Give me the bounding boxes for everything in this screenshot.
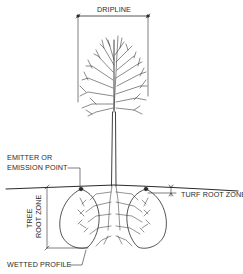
wetted-profile-label: WETTED PROFILE xyxy=(7,261,72,269)
tree-root-zone-dimension xyxy=(45,185,88,250)
dripline-label: DRIPLINE xyxy=(97,6,131,14)
emitter-label-line1: EMITTER OR xyxy=(7,154,52,162)
dripline-dimension xyxy=(76,14,150,102)
emitter-left-icon xyxy=(79,187,83,191)
tree-root-zone-label-line1: TREE xyxy=(26,208,34,228)
wetted-profile-right xyxy=(127,189,167,248)
turf-root-zone-label: TURF ROOT ZONE xyxy=(181,191,243,199)
tree-root-zone-label-line2: ROOT ZONE xyxy=(35,195,43,239)
emitter-label-line2: EMISSION POINT xyxy=(7,164,68,172)
wetted-profile-leader xyxy=(70,250,86,265)
emitter-leader xyxy=(68,168,80,186)
tree-roots-icon xyxy=(78,186,150,246)
tree-crown-icon xyxy=(80,36,147,116)
emitter-right-icon xyxy=(144,187,148,191)
wetted-profile-left xyxy=(60,189,99,248)
